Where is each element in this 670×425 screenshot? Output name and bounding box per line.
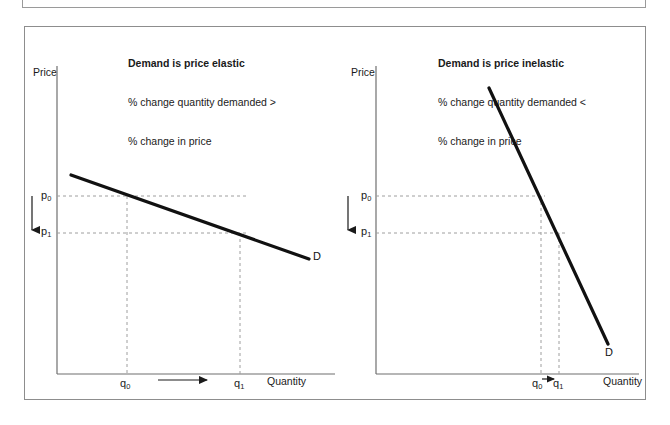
plot-elastic [25, 27, 345, 401]
plot-inelastic [345, 27, 647, 401]
demand-curve-elastic [71, 175, 309, 259]
figure-frame: Demand is price elastic % change quantit… [24, 26, 646, 400]
figure-root: Demand is price elastic % change quantit… [0, 0, 670, 425]
demand-curve-inelastic [489, 88, 608, 344]
above-figure-box [22, 0, 646, 8]
panel-elastic: Demand is price elastic % change quantit… [25, 27, 345, 401]
panel-inelastic: Demand is price inelastic % change quant… [345, 27, 647, 401]
